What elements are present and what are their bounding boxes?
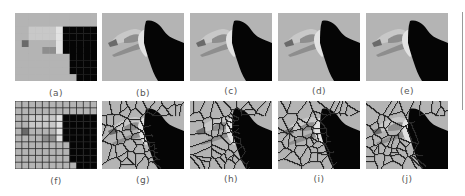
cell-edge — [289, 135, 290, 136]
cell-edge — [224, 101, 225, 102]
pixel-block — [42, 33, 49, 40]
cell-edge — [393, 161, 394, 162]
cell-edge — [117, 139, 118, 140]
cell-edge — [120, 155, 121, 156]
cell-edge — [300, 136, 301, 137]
cell-edge — [279, 141, 280, 142]
cell-edge — [318, 102, 319, 103]
cell-edge — [324, 143, 325, 144]
pixel-block — [70, 149, 77, 156]
cell-edge — [259, 114, 260, 115]
cell-edge — [370, 128, 371, 129]
cell-edge — [297, 136, 298, 137]
cell-edge — [142, 130, 143, 131]
cell-edge — [157, 159, 158, 160]
cell-edge — [413, 142, 414, 143]
cell-edge — [321, 164, 322, 165]
cell-edge — [316, 121, 317, 122]
pixel-block — [90, 149, 97, 156]
cell-edge — [203, 149, 204, 150]
cell-edge — [319, 152, 320, 153]
cell-edge — [386, 127, 387, 128]
cell-edge — [388, 105, 389, 106]
cell-edge — [312, 132, 313, 133]
cell-edge — [119, 160, 120, 161]
cell-edge — [329, 152, 330, 153]
cell-edge — [396, 123, 397, 124]
cell-edge — [407, 129, 408, 130]
cell-edge — [393, 121, 394, 122]
cell-edge — [329, 157, 330, 158]
voronoi-toucan-image-h — [190, 101, 272, 169]
cell-edge — [333, 165, 334, 166]
cell-edge — [205, 149, 206, 150]
cell-edge — [211, 150, 212, 151]
cell-edge — [142, 144, 143, 145]
cell-edge — [310, 114, 311, 115]
cell-edge — [392, 141, 393, 142]
cell-edge — [407, 131, 408, 132]
pixel-block — [90, 47, 97, 54]
cell-edge — [316, 161, 317, 162]
cell-edge — [403, 140, 404, 141]
cell-edge — [285, 110, 286, 111]
cell-edge — [127, 117, 128, 118]
cell-edge — [236, 106, 237, 107]
cell-edge — [413, 130, 414, 131]
cell-edge — [377, 121, 378, 122]
cell-edge — [391, 137, 392, 138]
cell-edge — [381, 153, 382, 154]
cell-edge — [148, 164, 149, 165]
cell-edge — [170, 114, 171, 115]
cell-edge — [446, 110, 447, 111]
cell-edge — [385, 110, 386, 111]
pixel-block — [36, 115, 43, 122]
cell-edge — [312, 141, 313, 142]
cell-edge — [238, 143, 239, 144]
cell-edge — [394, 152, 395, 153]
cell-edge — [135, 155, 136, 156]
cell-edge — [196, 164, 197, 165]
cell-edge — [279, 133, 280, 134]
cell-edge — [414, 166, 415, 167]
cell-edge — [378, 113, 379, 114]
cell-edge — [156, 115, 157, 116]
cell-edge — [413, 159, 414, 160]
pixel-block — [42, 101, 49, 108]
cell-edge — [229, 157, 230, 158]
cell-edge — [394, 107, 395, 108]
cell-edge — [310, 138, 311, 139]
cell-edge — [400, 154, 401, 155]
cell-edge — [126, 139, 127, 140]
cell-edge — [332, 163, 333, 164]
cell-edge — [213, 149, 214, 150]
cell-edge — [325, 128, 326, 129]
cell-edge — [209, 147, 210, 148]
cell-edge — [240, 140, 241, 141]
pixel-block — [83, 108, 90, 115]
cell-edge — [137, 153, 138, 154]
cell-edge — [127, 156, 128, 157]
cell-edge — [292, 128, 293, 129]
cell-edge — [197, 144, 198, 145]
cell-edge — [196, 133, 197, 134]
cell-edge — [130, 122, 131, 123]
cell-edge — [235, 116, 236, 117]
cell-edge — [311, 140, 312, 141]
cell-edge — [203, 123, 204, 124]
pixel-block — [63, 135, 70, 142]
cell-edge — [106, 118, 107, 119]
cell-edge — [160, 115, 161, 116]
cell-edge — [223, 138, 224, 139]
cell-edge — [164, 115, 165, 116]
cell-edge — [247, 162, 248, 163]
cell-edge — [116, 131, 117, 132]
cell-edge — [315, 139, 316, 140]
cell-edge — [417, 139, 418, 140]
cell-edge — [191, 154, 192, 155]
cell-edge — [324, 144, 325, 145]
cell-edge — [122, 116, 123, 117]
cell-edge — [203, 133, 204, 134]
cell-edge — [123, 116, 124, 117]
cell-edge — [311, 152, 312, 153]
